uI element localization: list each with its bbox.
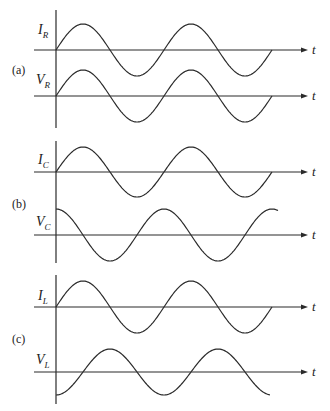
time-label: t xyxy=(312,364,316,379)
arrow-right-icon xyxy=(301,233,308,238)
panel-label: (b) xyxy=(12,197,26,211)
time-label: t xyxy=(312,88,316,103)
panel-capacitor: (b)tICtVC xyxy=(12,141,316,263)
trace-label: VC xyxy=(36,214,52,232)
trace-label: VR xyxy=(36,72,51,90)
time-label: t xyxy=(312,299,316,314)
time-label: t xyxy=(312,42,316,57)
arrow-right-icon xyxy=(301,48,308,53)
trace-i-r: tIR xyxy=(34,22,316,76)
panel-resistor: (a)tIRtVR xyxy=(12,10,316,128)
trace-v-c: tVC xyxy=(34,209,316,261)
arrow-right-icon xyxy=(301,94,308,99)
trace-label: IL xyxy=(37,288,48,306)
trace-label: IC xyxy=(37,152,50,170)
arrow-right-icon xyxy=(301,370,308,375)
trace-v-l: tVL xyxy=(34,349,316,395)
arrow-right-icon xyxy=(301,170,308,175)
panel-inductor: (c)tILtVL xyxy=(12,275,316,404)
phase-diagram: (a)tIRtVR(b)tICtVC(c)tILtVL xyxy=(0,0,330,411)
panel-label: (c) xyxy=(12,332,25,346)
trace-i-l: tIL xyxy=(34,281,316,333)
trace-v-r: tVR xyxy=(34,70,316,122)
trace-label: VL xyxy=(36,352,50,370)
trace-i-c: tIC xyxy=(34,147,316,197)
trace-label: IR xyxy=(37,22,49,40)
time-label: t xyxy=(312,164,316,179)
time-label: t xyxy=(312,227,316,242)
arrow-right-icon xyxy=(301,305,308,310)
panel-label: (a) xyxy=(12,63,25,77)
